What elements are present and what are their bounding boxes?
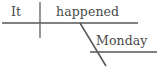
verb-label: happened <box>56 6 119 19</box>
subject-label: It <box>11 6 21 19</box>
modifier-label: Monday <box>96 35 148 48</box>
sentence-diagram: It happened Monday <box>0 0 158 67</box>
